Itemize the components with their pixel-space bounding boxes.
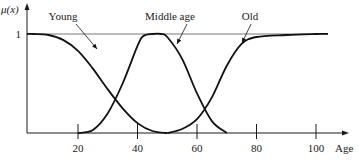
y-ticks: 1	[16, 28, 22, 40]
x-tick-label: 80	[251, 142, 263, 154]
x-tick-label: 60	[192, 142, 204, 154]
x-tick-label: 40	[132, 142, 144, 154]
y-axis-arrow	[25, 3, 30, 10]
series-curves	[27, 34, 328, 133]
curve-middle-age	[78, 34, 227, 133]
x-axis-arrow	[342, 131, 349, 136]
annotation-label-young: Young	[49, 10, 78, 22]
y-tick-label: 1	[16, 28, 22, 40]
y-axis-label: μ(x)	[0, 3, 19, 16]
annotations: YoungMiddle ageOld	[49, 10, 259, 49]
annotation-label-middle-age: Middle age	[145, 10, 195, 22]
curve-old	[167, 34, 328, 133]
x-axis-label: Age	[335, 142, 353, 154]
annotation-label-old: Old	[242, 10, 259, 22]
x-ticks: 20406080100	[73, 124, 325, 154]
membership-function-chart: μ(x) Age 20406080100 1 YoungMiddle ageOl…	[0, 0, 359, 160]
x-tick-label: 100	[308, 142, 325, 154]
x-tick-label: 20	[73, 142, 85, 154]
